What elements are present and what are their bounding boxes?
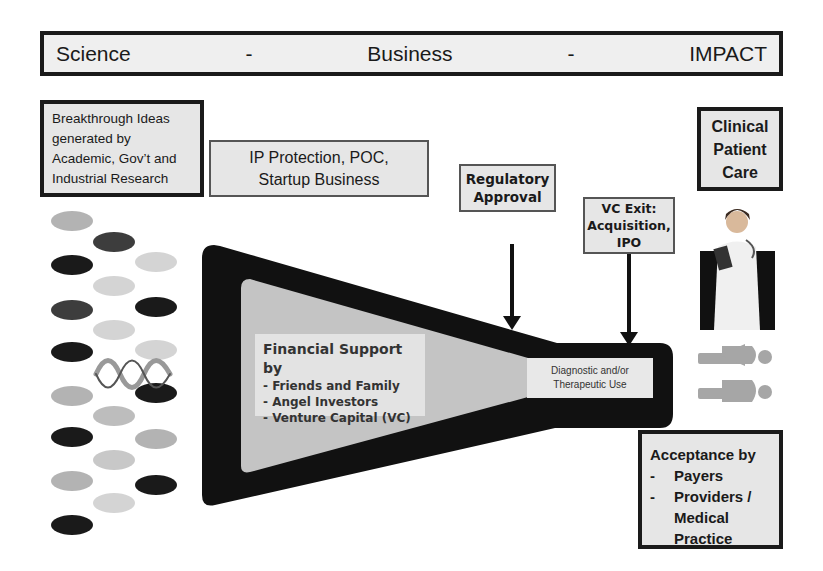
header-science: Science: [56, 42, 131, 66]
acceptance-label: Practice: [674, 528, 732, 549]
acceptance-box: Acceptance by - Payers - Providers / Med…: [638, 430, 783, 549]
vc-exit-line: Acquisition,: [587, 217, 670, 234]
clinical-line: Care: [712, 161, 769, 184]
clinical-patient-care-box: Clinical Patient Care: [697, 107, 783, 191]
vc-exit-arrow: [620, 254, 638, 346]
header-banner: Science - Business - IMPACT: [40, 31, 783, 76]
diagnostic-therapeutic-use-label: Diagnostic and/or Therapeutic Use: [527, 358, 653, 398]
acceptance-dash: -: [650, 486, 674, 507]
ip-line: IP Protection, POC,: [249, 147, 388, 169]
ip-protection-box: IP Protection, POC, Startup Business: [209, 140, 429, 197]
vc-exit-box: VC Exit: Acquisition, IPO: [583, 197, 675, 254]
financial-support-item: - Friends and Family: [263, 378, 417, 394]
financial-support-item: - Venture Capital (VC): [263, 410, 417, 426]
acceptance-item: - Payers: [650, 465, 771, 486]
regulatory-line: Regulatory: [466, 170, 550, 188]
regulatory-line: Approval: [466, 188, 550, 206]
header-separator-1: -: [246, 42, 253, 66]
breakthrough-ideas-box: Breakthrough Ideas generated by Academic…: [40, 100, 204, 197]
header-separator-2: -: [567, 42, 574, 66]
financial-support-title: Financial Support by: [263, 340, 417, 378]
acceptance-item: Medical: [650, 507, 771, 528]
acceptance-title: Acceptance by: [650, 444, 771, 465]
breakthrough-line: Academic, Gov’t and: [52, 149, 177, 169]
diagnostic-line: Therapeutic Use: [553, 378, 626, 392]
breakthrough-line: Breakthrough Ideas: [52, 109, 177, 129]
molecule-ellipses: [51, 211, 177, 535]
acceptance-label: Providers /: [674, 486, 752, 507]
header-business: Business: [367, 42, 452, 66]
ip-line: Startup Business: [249, 169, 388, 191]
acceptance-label: Medical: [674, 507, 729, 528]
acceptance-item: - Providers /: [650, 486, 771, 507]
acceptance-dash: [650, 528, 674, 549]
regulatory-arrow: [503, 244, 521, 330]
financial-support-label: Financial Support by - Friends and Famil…: [255, 334, 425, 416]
breakthrough-line: generated by: [52, 129, 177, 149]
diagnostic-line: Diagnostic and/or: [551, 364, 629, 378]
acceptance-dash: [650, 507, 674, 528]
acceptance-item: Practice: [650, 528, 771, 549]
header-impact: IMPACT: [689, 42, 767, 66]
acceptance-label: Payers: [674, 465, 723, 486]
clinical-line: Patient: [712, 138, 769, 161]
patients-icon: [698, 344, 772, 402]
breakthrough-line: Industrial Research: [52, 169, 177, 189]
acceptance-dash: -: [650, 465, 674, 486]
vc-exit-line: IPO: [587, 234, 670, 251]
financial-support-item: - Angel Investors: [263, 394, 417, 410]
clinical-line: Clinical: [712, 115, 769, 138]
doctor-icon: [700, 209, 775, 330]
regulatory-approval-box: Regulatory Approval: [459, 164, 556, 212]
vc-exit-line: VC Exit:: [587, 200, 670, 217]
